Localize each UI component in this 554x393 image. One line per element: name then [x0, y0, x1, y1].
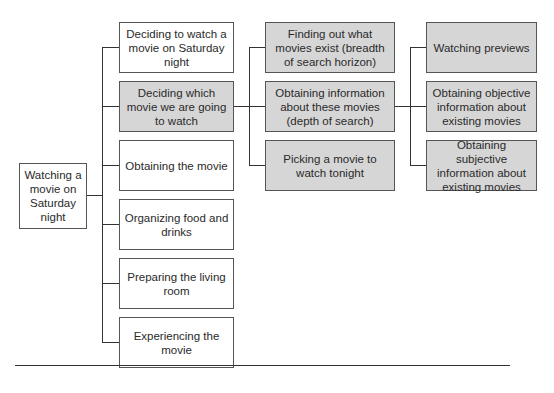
connector [234, 106, 249, 107]
level1-node-experience: Experiencing the movie [119, 317, 234, 368]
connector [102, 342, 119, 343]
node-label: Obtaining objective information about ex… [431, 86, 532, 128]
node-label: Preparing the living room [124, 270, 229, 298]
root-node-label: Watching a movie on Saturday night [24, 168, 82, 224]
connector [249, 106, 265, 107]
level1-node-food-drinks: Organizing food and drinks [119, 199, 234, 250]
connector [410, 47, 426, 48]
level3-node-subjective-info: Obtaining subjective information about e… [426, 140, 537, 191]
level2-node-breadth: Finding out what movies exist (breadth o… [265, 22, 395, 73]
level2-node-pick: Picking a movie to watch tonight [265, 140, 395, 191]
connector [410, 165, 426, 166]
node-label: Finding out what movies exist (breadth o… [270, 27, 390, 69]
node-label: Obtaining the movie [125, 159, 227, 173]
level1-node-decide-to-watch: Deciding to watch a movie on Saturday ni… [119, 22, 234, 73]
connector [87, 195, 102, 196]
connector [395, 106, 410, 107]
level1-node-obtain-movie: Obtaining the movie [119, 140, 234, 191]
level1-node-decide-which-movie: Deciding which movie we are going to wat… [119, 81, 234, 132]
connector [102, 165, 119, 166]
connector [102, 47, 103, 343]
node-label: Obtaining information about these movies… [270, 86, 390, 128]
node-label: Watching previews [433, 41, 529, 55]
connector [102, 106, 119, 107]
level3-node-previews: Watching previews [426, 22, 537, 73]
connector [249, 165, 265, 166]
divider [15, 365, 510, 366]
root-node: Watching a movie on Saturday night [19, 163, 87, 229]
level3-node-objective-info: Obtaining objective information about ex… [426, 81, 537, 132]
connector [249, 47, 265, 48]
level1-node-living-room: Preparing the living room [119, 258, 234, 309]
node-label: Organizing food and drinks [124, 211, 229, 239]
connector [102, 283, 119, 284]
connector [102, 47, 119, 48]
node-label: Experiencing the movie [124, 329, 229, 357]
node-label: Picking a movie to watch tonight [270, 152, 390, 180]
level2-node-depth: Obtaining information about these movies… [265, 81, 395, 132]
node-label: Obtaining subjective information about e… [431, 138, 532, 194]
node-label: Deciding which movie we are going to wat… [124, 86, 229, 128]
node-label: Deciding to watch a movie on Saturday ni… [124, 27, 229, 69]
connector [102, 224, 119, 225]
connector [410, 106, 426, 107]
